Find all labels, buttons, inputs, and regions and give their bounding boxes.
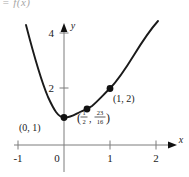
fraction-y-numerator: 23 [97,109,104,116]
fraction-label-open-paren: ( [77,111,81,125]
function-curve [26,21,158,118]
label-point-0-1: (0, 1) [19,122,41,134]
fraction-x-denominator: 2 [82,118,85,125]
data-point-0-1 [61,114,68,121]
label-point-1-2: (1, 2) [113,93,135,105]
y-tick-label-4: 4 [49,27,55,39]
x-axis-label: x [178,134,184,145]
y-tick-label-2: 2 [49,82,55,94]
x-tick-label-neg1: -1 [13,152,22,164]
x-axis-arrowhead [168,142,177,149]
graph-figure: = f(x) -1 0 1 2 2 4 x y (0, 1) [0,0,189,177]
fraction-y-denominator: 16 [97,118,104,125]
x-tick-label-0: 0 [54,152,60,164]
x-tick-label-1: 1 [107,152,113,164]
fraction-label-close-paren: ) [106,111,110,125]
fraction-x-numerator: 1 [82,109,85,116]
coordinate-plot: -1 0 1 2 2 4 x y (0, 1) (1, 2) ( 1 2 , 2… [0,0,189,177]
data-point-1-2 [107,85,114,92]
x-tick-label-2: 2 [153,152,159,164]
fraction-label-comma: , [89,113,92,124]
y-axis-label: y [70,20,76,31]
y-axis-arrowhead [61,23,68,32]
label-point-half-23-16: ( 1 2 , 23 16 ) [77,109,110,125]
